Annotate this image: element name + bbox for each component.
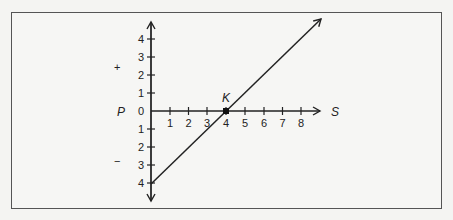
y-tick-label: 1 <box>138 123 144 135</box>
y-tick-label: 2 <box>138 141 144 153</box>
x-tick-label: 1 <box>167 117 173 129</box>
x-tick-label: 6 <box>261 117 267 129</box>
y-tick-label: 4 <box>138 177 144 189</box>
x-tick-label: 5 <box>242 117 248 129</box>
x-tick-label: 2 <box>185 117 191 129</box>
x-tick-label: 4 <box>223 117 229 129</box>
chart-svg: 4 3 2 1 0 1 2 3 4 1 2 3 4 5 6 7 8 P S + … <box>0 0 453 220</box>
y-tick-label: 2 <box>138 69 144 81</box>
positive-sign-label: + <box>114 61 120 73</box>
x-axis-label: S <box>331 105 339 119</box>
origin-label: 0 <box>138 105 144 117</box>
y-tick-label: 3 <box>138 51 144 63</box>
y-tick-label: 4 <box>138 33 144 45</box>
point-k-label: K <box>222 91 231 105</box>
x-tick-label: 8 <box>298 117 304 129</box>
negative-sign-label: − <box>114 155 120 167</box>
y-axis-label: P <box>117 105 125 119</box>
y-tick-label: 3 <box>138 159 144 171</box>
data-line <box>151 19 321 184</box>
point-k-marker <box>223 108 229 114</box>
y-tick-label: 1 <box>138 87 144 99</box>
x-tick-label: 7 <box>279 117 285 129</box>
